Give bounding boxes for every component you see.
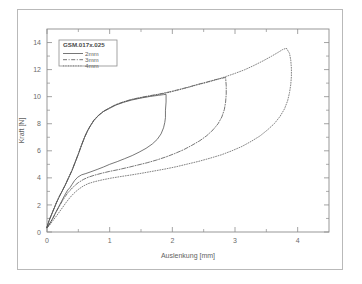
y-axis-title: Kraft [N] xyxy=(18,118,26,144)
x-tick-label: 0 xyxy=(45,237,49,244)
data-curves xyxy=(47,48,291,228)
x-tick-label: 1 xyxy=(108,237,112,244)
legend-title: GSM.017x.025 xyxy=(63,41,105,48)
x-axis-title: Auslenkung [mm] xyxy=(161,252,215,260)
series-curve-3mm xyxy=(47,77,226,227)
y-tick-label: 4 xyxy=(37,174,41,181)
x-tick-label: 2 xyxy=(170,237,174,244)
x-tick-label: 4 xyxy=(296,237,300,244)
y-tick-label: 6 xyxy=(37,147,41,154)
chart-svg: 0123402468101214 Auslenkung [mm]Kraft [N… xyxy=(0,0,362,284)
y-tick-label: 8 xyxy=(37,120,41,127)
legend-label-4mm[interactable]: 4mm xyxy=(85,62,99,69)
x-tick-label: 3 xyxy=(233,237,237,244)
y-tick-label: 0 xyxy=(37,229,41,236)
chart-legend[interactable]: GSM.017x.0252mm3mm4mm xyxy=(59,40,117,69)
series-curve-2mm xyxy=(47,94,166,227)
series-curve-4mm xyxy=(47,48,291,228)
y-tick-label: 10 xyxy=(33,93,41,100)
y-tick-label: 14 xyxy=(33,39,41,46)
chart-container: 0123402468101214 Auslenkung [mm]Kraft [N… xyxy=(0,0,362,284)
y-tick-label: 2 xyxy=(37,202,41,209)
y-tick-label: 12 xyxy=(33,66,41,73)
